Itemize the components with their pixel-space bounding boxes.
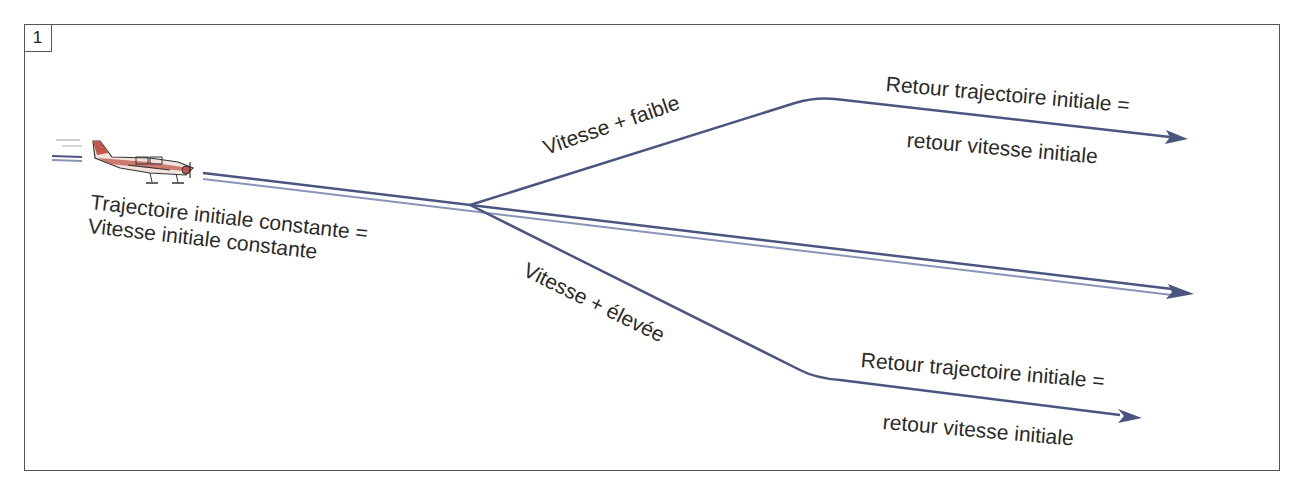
arrowhead-icon [1166, 284, 1194, 299]
lower-branch-trajectory [470, 205, 1142, 423]
arrowhead-icon [1118, 409, 1142, 423]
airplane-icon [52, 140, 193, 183]
